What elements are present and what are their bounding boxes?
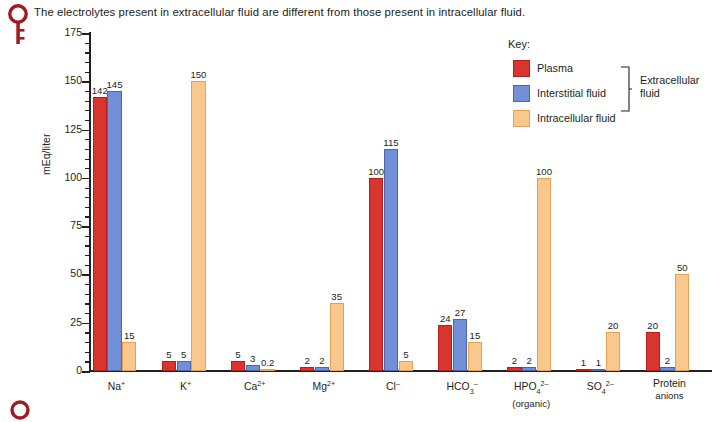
extracellular-label-line2: fluid (640, 87, 699, 100)
y-tick-label: 125 (42, 123, 82, 135)
bar-value-label: 115 (374, 137, 408, 148)
y-tick-minor (85, 52, 90, 53)
y-tick-minor (85, 62, 90, 63)
x-tick-label-8: Proteinanions (621, 378, 717, 402)
y-tick-minor (85, 197, 90, 198)
y-tick-minor (85, 110, 90, 111)
bar-intracellular-fluid-0 (122, 342, 136, 371)
intracellular-swatch (513, 110, 530, 127)
y-tick-minor (85, 43, 90, 44)
y-tick-minor (85, 72, 90, 73)
bar-value-label: 145 (98, 79, 132, 90)
bar-intracellular-fluid-2 (260, 369, 274, 371)
y-tick-minor (85, 245, 90, 246)
y-tick-major (82, 81, 90, 83)
y-tick-label: 175 (42, 26, 82, 38)
y-tick-minor (85, 120, 90, 121)
bar-value-label: 15 (112, 330, 146, 341)
legend-label: Plasma (537, 62, 573, 74)
bar-interstitial-fluid-6 (522, 367, 536, 371)
chart-legend: Key: PlasmaInterstitial fluidIntracellul… (508, 38, 718, 50)
y-tick-major (82, 274, 90, 276)
y-tick-label: 0 (42, 364, 82, 376)
y-tick-minor (85, 216, 90, 217)
y-tick-major (82, 130, 90, 132)
y-tick-minor (85, 352, 90, 353)
y-tick-minor (85, 284, 90, 285)
extracellular-group-label: Extracellular fluid (640, 74, 699, 100)
bar-plasma-3 (300, 367, 314, 371)
bar-value-label: 50 (665, 262, 699, 273)
interstitial-swatch (513, 85, 530, 102)
bar-intracellular-fluid-4 (399, 361, 413, 371)
y-tick-label: 150 (42, 74, 82, 86)
plasma-swatch (513, 60, 530, 77)
y-tick-minor (85, 236, 90, 237)
bar-intracellular-fluid-3 (330, 303, 344, 371)
legend-label: Interstitial fluid (537, 87, 606, 99)
y-tick-label: 50 (42, 267, 82, 279)
y-tick-minor (85, 303, 90, 304)
bar-intracellular-fluid-6 (537, 178, 551, 371)
bar-value-label: 150 (181, 69, 215, 80)
bar-interstitial-fluid-0 (107, 91, 121, 371)
bar-plasma-4 (369, 178, 383, 371)
plot-area: 1421451555150530.22235100115524271522100… (90, 33, 712, 371)
y-tick-label: 100 (42, 171, 82, 183)
bar-value-label: 5 (389, 349, 423, 360)
bar-intracellular-fluid-1 (191, 81, 205, 371)
bar-value-label: 27 (443, 307, 477, 318)
bar-value-label: 20 (596, 320, 630, 331)
y-tick-minor (85, 101, 90, 102)
y-tick-minor (85, 342, 90, 343)
y-tick-minor (85, 188, 90, 189)
y-tick-label: 75 (42, 219, 82, 231)
y-tick-minor (85, 313, 90, 314)
y-tick-major (82, 178, 90, 180)
y-tick-minor (85, 361, 90, 362)
extracellular-label-line1: Extracellular (640, 74, 699, 87)
bar-plasma-5 (438, 325, 452, 371)
bar-value-label: 15 (458, 330, 492, 341)
bar-interstitial-fluid-7 (591, 369, 605, 371)
y-tick-minor (85, 139, 90, 140)
y-tick-major (82, 33, 90, 35)
y-tick-minor (85, 149, 90, 150)
bar-value-label: 20 (636, 320, 670, 331)
bar-plasma-7 (576, 369, 590, 371)
bar-value-label: 35 (320, 291, 354, 302)
legend-title: Key: (508, 38, 718, 50)
bar-intracellular-fluid-7 (606, 332, 620, 371)
bar-value-label: 100 (527, 166, 561, 177)
bar-plasma-0 (93, 97, 107, 371)
bar-interstitial-fluid-4 (384, 149, 398, 371)
y-tick-minor (85, 168, 90, 169)
bar-intracellular-fluid-5 (468, 342, 482, 371)
bar-interstitial-fluid-1 (177, 361, 191, 371)
y-tick-minor (85, 294, 90, 295)
y-tick-minor (85, 265, 90, 266)
extracellular-group-bracket (620, 66, 632, 112)
bar-plasma-6 (507, 367, 521, 371)
y-tick-major (82, 323, 90, 325)
y-tick-minor (85, 255, 90, 256)
legend-label: Intracellular fluid (537, 112, 616, 124)
y-tick-minor (85, 159, 90, 160)
bar-plasma-1 (162, 361, 176, 371)
bar-value-label: 0.2 (251, 357, 285, 368)
y-tick-label: 25 (42, 316, 82, 328)
bar-interstitial-fluid-5 (453, 319, 467, 371)
y-tick-major (82, 226, 90, 228)
y-tick-major (82, 371, 90, 373)
bar-intracellular-fluid-8 (675, 274, 689, 371)
bar-interstitial-fluid-8 (660, 367, 674, 371)
y-axis-title: mEq/liter (40, 134, 52, 175)
y-tick-minor (85, 332, 90, 333)
y-tick-minor (85, 207, 90, 208)
bar-interstitial-fluid-3 (315, 367, 329, 371)
